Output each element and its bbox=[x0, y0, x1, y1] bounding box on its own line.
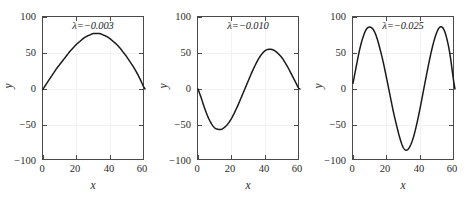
x-tick-label-0-p1: 0 bbox=[27, 163, 57, 174]
x-axis-label-1: x bbox=[42, 179, 144, 191]
y-tick-label-100-p3: 100 bbox=[312, 11, 346, 22]
curve-plot-1 bbox=[43, 17, 145, 161]
chart-panel-2: y 100 50 0 −50 −100 bbox=[155, 0, 310, 199]
chart-panel-3: y 100 50 0 −50 −100 bbox=[310, 0, 467, 199]
y-tick-label-neg50-p1: −50 bbox=[2, 119, 36, 130]
plot-area-3 bbox=[352, 16, 454, 160]
x-tick-label-20-p3: 20 bbox=[370, 163, 400, 174]
x-tick-label-20-p1: 20 bbox=[60, 163, 90, 174]
figure-container: y 100 50 0 −50 −100 bbox=[0, 0, 467, 199]
lambda-annotation-1: λ=−0.003 bbox=[42, 20, 144, 31]
lambda-annotation-3: λ=−0.025 bbox=[352, 20, 454, 31]
y-tick-label-0-p1: 0 bbox=[2, 83, 36, 94]
y-tick-label-100-p2: 100 bbox=[157, 11, 191, 22]
curve-plot-3 bbox=[353, 17, 455, 161]
data-series-line-2 bbox=[198, 49, 300, 129]
plot-area-1 bbox=[42, 16, 144, 160]
x-tick-label-40-p2: 40 bbox=[249, 163, 279, 174]
x-tick-label-0-p2: 0 bbox=[182, 163, 212, 174]
plot-area-2 bbox=[197, 16, 299, 160]
x-tick-label-60-p3: 60 bbox=[437, 163, 467, 174]
y-tick-label-neg50-p3: −50 bbox=[312, 119, 346, 130]
y-tick-label-100-p1: 100 bbox=[2, 11, 36, 22]
x-tick-label-60-p1: 60 bbox=[127, 163, 157, 174]
y-tick-label-50-p3: 50 bbox=[312, 47, 346, 58]
x-axis-label-3: x bbox=[352, 179, 454, 191]
chart-panel-1: y 100 50 0 −50 −100 bbox=[0, 0, 155, 199]
x-tick-label-40-p1: 40 bbox=[94, 163, 124, 174]
curve-plot-2 bbox=[198, 17, 300, 161]
x-tick-label-20-p2: 20 bbox=[215, 163, 245, 174]
x-tick-label-60-p2: 60 bbox=[282, 163, 312, 174]
y-tick-label-0-p2: 0 bbox=[157, 83, 191, 94]
y-tick-label-neg50-p2: −50 bbox=[157, 119, 191, 130]
x-tick-label-40-p3: 40 bbox=[404, 163, 434, 174]
data-series-line-3 bbox=[353, 27, 455, 150]
y-tick-label-0-p3: 0 bbox=[312, 83, 346, 94]
lambda-annotation-2: λ=−0.010 bbox=[197, 20, 299, 31]
y-tick-label-50-p2: 50 bbox=[157, 47, 191, 58]
data-series-line-1 bbox=[43, 33, 145, 89]
y-tick-label-50-p1: 50 bbox=[2, 47, 36, 58]
x-tick-label-0-p3: 0 bbox=[337, 163, 367, 174]
x-axis-label-2: x bbox=[197, 179, 299, 191]
